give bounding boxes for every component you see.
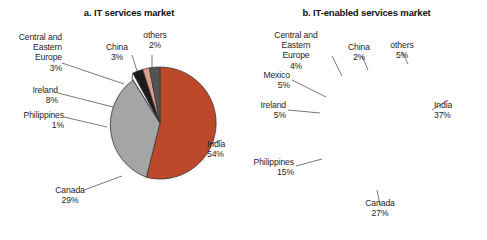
label-india-b: India 37% xyxy=(434,100,476,120)
label-philippines-b: Philippines 15% xyxy=(244,157,294,177)
label-ireland-b: Ireland 5% xyxy=(244,100,286,120)
chart-a-title: a. IT services market xyxy=(14,7,244,18)
label-others-b: others 5% xyxy=(382,40,422,60)
label-china-a: China 3% xyxy=(96,42,138,62)
chart-panel-a: a. IT services market xyxy=(0,0,244,240)
label-mexico-b: Mexico 5% xyxy=(244,70,290,90)
label-philippines-a: Philippines 1% xyxy=(0,110,64,130)
label-canada-a: Canada 29% xyxy=(42,185,98,205)
label-china-b: China 2% xyxy=(339,42,379,62)
chart-panel-b: b. IT-enabled services market xyxy=(244,0,487,240)
label-india-a: India 54% xyxy=(207,139,247,159)
label-others-a: others 2% xyxy=(135,30,175,50)
chart-b-title: b. IT-enabled services market xyxy=(246,7,487,18)
label-canada-b: Canada 27% xyxy=(352,198,408,218)
label-cee-a: Central and Eastern Europe 3% xyxy=(0,32,62,73)
label-ireland-a: Ireland 8% xyxy=(0,85,58,105)
pie-a-svg xyxy=(100,63,220,183)
label-cee-b: Central and Eastern Europe 4% xyxy=(258,30,334,71)
pie-chart-a xyxy=(100,63,220,183)
figure-root: a. IT services market xyxy=(0,0,487,240)
